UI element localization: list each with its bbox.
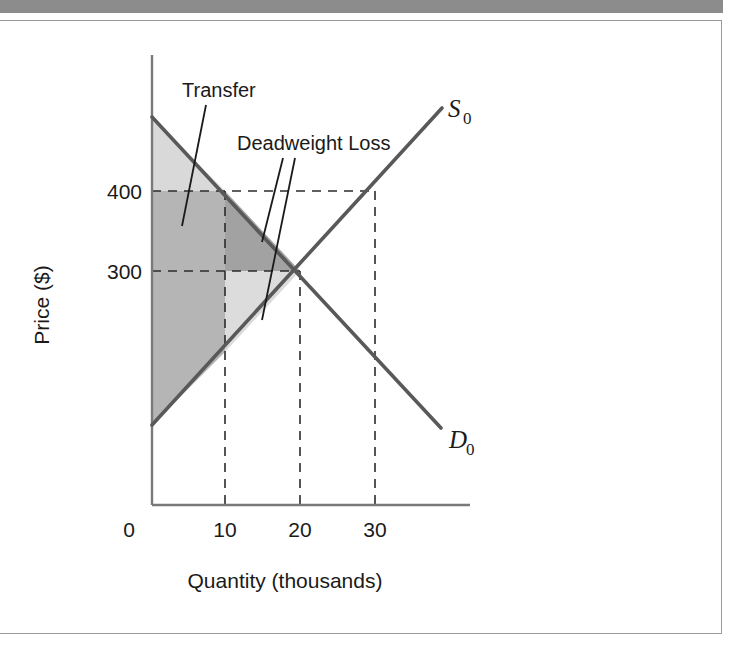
annotation-deadweight-loss: Deadweight Loss — [237, 132, 390, 154]
annotation-transfer: Transfer — [182, 79, 256, 101]
demand-curve-label: D — [448, 426, 467, 453]
region-producer-surplus-left — [152, 271, 225, 425]
y-tick-label-400: 400 — [107, 180, 142, 203]
x-tick-label-0: 0 — [123, 518, 135, 541]
region-transfer — [152, 191, 225, 271]
region-producer-surplus-right — [225, 271, 300, 352]
x-tick-label-10: 10 — [213, 518, 236, 541]
supply-curve-label: S — [448, 95, 461, 122]
y-axis-title: Price ($) — [30, 265, 53, 344]
x-tick-label-20: 20 — [288, 518, 311, 541]
figure-page: Transfer Deadweight Loss S 0 D 0 400 300… — [0, 0, 752, 656]
x-axis-title: Quantity (thousands) — [188, 569, 383, 592]
demand-curve-label-subscript: 0 — [466, 440, 475, 459]
supply-curve-label-subscript: 0 — [463, 109, 472, 128]
supply-demand-chart: Transfer Deadweight Loss S 0 D 0 400 300… — [0, 0, 752, 656]
y-tick-label-300: 300 — [107, 260, 142, 283]
region-deadweight-loss — [225, 191, 300, 271]
x-tick-label-30: 30 — [363, 518, 386, 541]
